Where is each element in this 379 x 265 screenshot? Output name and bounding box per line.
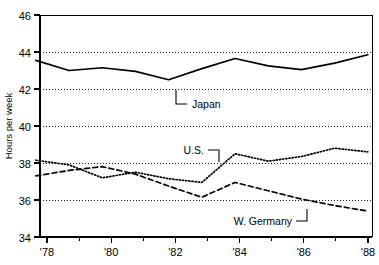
series-label-japan: Japan — [192, 98, 221, 110]
chart-canvas: 46 44 42 40 38 36 34 Hours per week '78 — [0, 0, 379, 265]
y-axis-title: Hours per week — [3, 92, 14, 159]
x-label-1984: '84 — [232, 246, 246, 258]
line-chart: 46 44 42 40 38 36 34 Hours per week '78 — [0, 0, 379, 265]
y-label-44: 44 — [19, 47, 31, 59]
x-label-1982: '82 — [168, 246, 182, 258]
x-label-1980: '80 — [104, 246, 118, 258]
x-label-1988: '88 — [361, 246, 375, 258]
y-label-46: 46 — [19, 10, 31, 22]
series-label-w-germany: W. Germany — [234, 215, 293, 227]
y-label-36: 36 — [19, 195, 31, 207]
x-label-1978: '78 — [40, 246, 54, 258]
y-label-38: 38 — [19, 158, 31, 170]
x-label-1986: '86 — [297, 246, 311, 258]
y-label-34: 34 — [19, 232, 31, 244]
series-label-us: U.S. — [184, 144, 204, 156]
y-label-42: 42 — [19, 84, 31, 96]
y-label-40: 40 — [19, 121, 31, 133]
chart-background — [0, 0, 379, 265]
